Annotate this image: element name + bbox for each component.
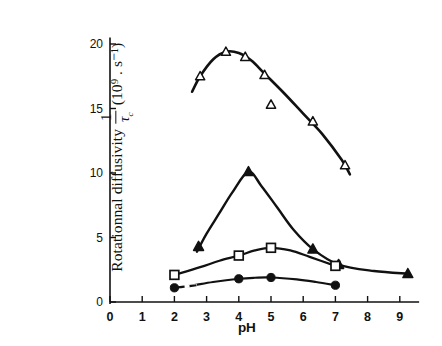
filled-circle-marker (331, 281, 339, 289)
series-curve (174, 277, 335, 287)
open-square-marker (267, 243, 276, 252)
y-tick-label: 5 (96, 231, 103, 245)
data-point-marker (267, 273, 275, 281)
open-triangle-marker (266, 100, 275, 108)
data-point-marker (235, 275, 243, 283)
y-tick-label: 15 (90, 102, 104, 116)
y-tick-label: 0 (96, 295, 103, 309)
open-square-marker (331, 261, 340, 270)
y-tick-label: 10 (90, 166, 104, 180)
x-tick-label: 5 (268, 310, 275, 324)
figure-container: Rotationnal diffusivity 1 τc (10⁹ . s⁻¹)… (0, 0, 442, 346)
data-point-marker (170, 284, 178, 292)
x-tick-label: 3 (203, 310, 210, 324)
y-tick-label: 20 (90, 37, 104, 51)
filled-circle-marker (267, 273, 275, 281)
data-point-marker (266, 100, 275, 108)
x-axis-label: pH (238, 320, 256, 335)
open-square-marker (234, 251, 243, 260)
data-point-marker (170, 271, 179, 280)
axis-ticks (110, 44, 400, 302)
filled-circle-marker (170, 284, 178, 292)
open-square-marker (170, 271, 179, 280)
x-tick-label: 6 (300, 310, 307, 324)
x-tick-label: 1 (139, 310, 146, 324)
plot-area: 012345678905101520 (0, 0, 442, 346)
data-point-marker (243, 167, 253, 176)
data-markers (170, 47, 413, 292)
x-tick-label: 8 (364, 310, 371, 324)
filled-circle-marker (235, 275, 243, 283)
x-tick-label: 9 (396, 310, 403, 324)
x-tick-label: 2 (171, 310, 178, 324)
axis-tick-labels: 012345678905101520 (90, 37, 404, 324)
data-point-marker (267, 243, 276, 252)
data-curves (174, 51, 407, 288)
x-tick-label: 7 (332, 310, 339, 324)
data-point-marker (234, 251, 243, 260)
x-tick-label: 0 (107, 310, 114, 324)
data-point-marker (331, 261, 340, 270)
series-curve (192, 51, 350, 174)
filled-triangle-marker (243, 167, 253, 176)
data-point-marker (331, 281, 339, 289)
